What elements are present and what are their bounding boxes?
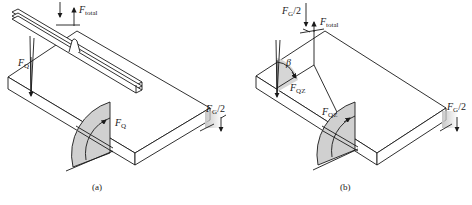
figure-a (8, 2, 226, 171)
figure-b (256, 3, 458, 170)
label-f-g-half-a: FG/2 (206, 104, 225, 116)
caption-a: (a) (92, 183, 102, 192)
diagram-canvas (0, 0, 472, 205)
label-f-q-left-a: FQ (18, 58, 29, 70)
label-f-total-a: Ftotal (79, 5, 98, 17)
label-f-qz-left-b: FQZ (290, 83, 305, 95)
caption-b: (b) (340, 183, 351, 192)
label-beta: β (286, 58, 291, 68)
label-f-qz-arc-b: FQZ (322, 107, 337, 119)
label-f-q-arc-a: FQ (115, 118, 126, 130)
label-f-total-b: Ftotal (320, 17, 339, 29)
label-f-g-half-top-b: FG/2 (282, 6, 301, 18)
label-f-g-half-right-b: FG/2 (447, 102, 466, 114)
